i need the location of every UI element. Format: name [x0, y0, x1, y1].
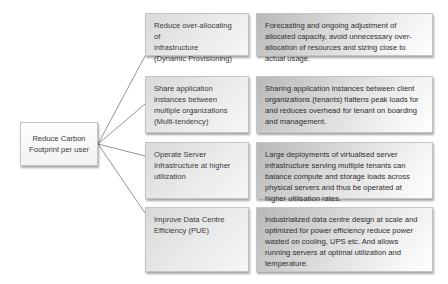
description-text: Industrialized data centre design at sca… — [265, 215, 417, 268]
strategy-line: Infrastructure at higher — [154, 160, 240, 171]
root-label: Reduce Carbon Footprint per user — [24, 133, 94, 155]
strategy-line: Share application — [154, 83, 240, 94]
description-node-dynamic-provisioning: Forecasting and ongoing adjustment of al… — [256, 13, 433, 56]
strategy-line: Improve Data Centre — [154, 214, 240, 225]
strategy-node-dynamic-provisioning: Reduce over-allocating of infrastructure… — [145, 13, 249, 56]
strategy-node-higher-utilization: Operate Server Infrastructure at higher … — [145, 142, 249, 199]
strategy-line: multiple organizations — [154, 105, 240, 116]
strategy-line: utilization — [154, 171, 240, 182]
strategy-line: (Multi-tendency) — [154, 116, 240, 127]
strategy-line: Efficiency (PUE) — [154, 225, 240, 236]
strategy-line: Reduce over-allocating of — [154, 20, 240, 42]
root-node: Reduce Carbon Footprint per user — [20, 122, 98, 166]
description-node-data-centre-efficiency: Industrialized data centre design at sca… — [256, 207, 433, 272]
description-node-higher-utilization: Large deployments of virtualised server … — [256, 142, 433, 199]
strategy-line: (Dynamic Provisioning) — [154, 53, 240, 64]
connector-to-branch-1 — [98, 56, 145, 144]
strategy-line: Operate Server — [154, 149, 240, 160]
strategy-line: instances between — [154, 94, 240, 105]
strategy-node-data-centre-efficiency: Improve Data Centre Efficiency (PUE) — [145, 207, 249, 272]
strategy-line: infrastructure — [154, 42, 240, 53]
strategy-node-multi-tenancy: Share application instances between mult… — [145, 76, 249, 133]
connector-to-branch-2 — [98, 104, 145, 144]
description-node-multi-tenancy: Sharing application instances between cl… — [256, 76, 433, 133]
description-text: Sharing application instances between cl… — [265, 84, 419, 126]
description-text: Large deployments of virtualised server … — [265, 150, 410, 203]
